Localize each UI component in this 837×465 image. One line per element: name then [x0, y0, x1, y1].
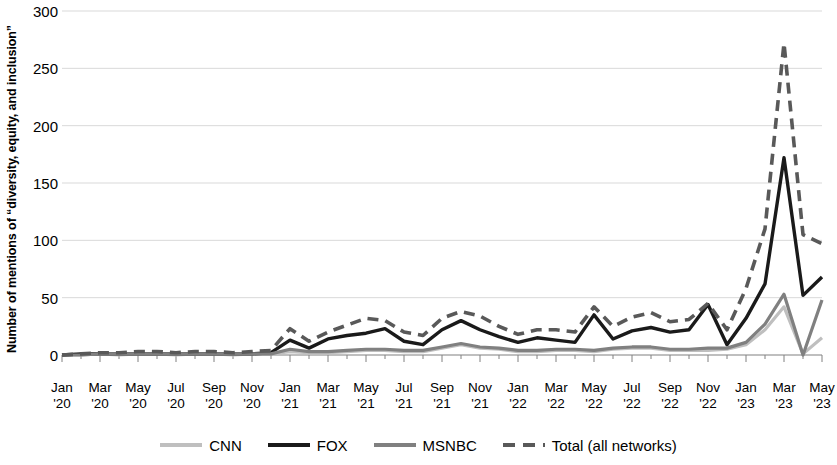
chart-legend: CNNFOXMSNBCTotal (all networks) — [0, 430, 837, 460]
legend-item[interactable]: Total (all networks) — [503, 437, 677, 454]
legend-swatch — [268, 438, 310, 452]
legend-label: Total (all networks) — [552, 437, 677, 454]
legend-swatch — [160, 438, 202, 452]
legend-item[interactable]: MSNBC — [374, 437, 477, 454]
x-tick-label: May'23 — [799, 380, 837, 412]
legend-swatch — [374, 438, 416, 452]
legend-swatch — [503, 438, 545, 452]
x-axis-tick-labels: Jan'20Mar'20May'20Jul'20Sep'20Nov'20Jan'… — [62, 380, 822, 426]
series-line-fox — [62, 158, 822, 355]
legend-label: FOX — [317, 437, 348, 454]
legend-item[interactable]: CNN — [160, 437, 242, 454]
x-tick-year: '23 — [799, 396, 837, 412]
x-tick-month: May — [799, 380, 837, 396]
series-lines — [62, 43, 822, 355]
legend-item[interactable]: FOX — [268, 437, 348, 454]
legend-label: MSNBC — [423, 437, 477, 454]
legend-label: CNN — [209, 437, 242, 454]
dei-mentions-line-chart: Number of mentions of “diversity, equity… — [0, 0, 837, 465]
